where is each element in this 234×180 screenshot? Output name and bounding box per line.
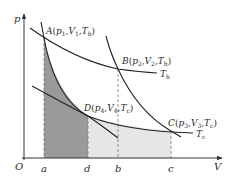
point-C-label: C(p3,V3,Tc) [168, 118, 217, 129]
y-axis-label: p [14, 13, 21, 24]
tick-d: d [84, 163, 90, 174]
point-B-label: B(p2,V2,Th) [121, 56, 171, 67]
x-axis-label: V [214, 161, 223, 172]
origin-label: O [15, 161, 23, 172]
area-under-AD [44, 38, 88, 158]
point-A-label: A(p1,V1,Th) [45, 26, 95, 37]
tick-a: a [41, 163, 47, 174]
pv-diagram: p V O a d b c A(p1,V1,Th) B(p2,V2,Th) C(… [0, 0, 234, 180]
tick-c: c [168, 163, 174, 174]
hot-isotherm-label: Th [160, 69, 170, 80]
point-D-label: D(p4,V4,Tc) [83, 103, 133, 114]
cold-isotherm-label: Tc [196, 129, 206, 140]
tick-b: b [115, 163, 121, 174]
